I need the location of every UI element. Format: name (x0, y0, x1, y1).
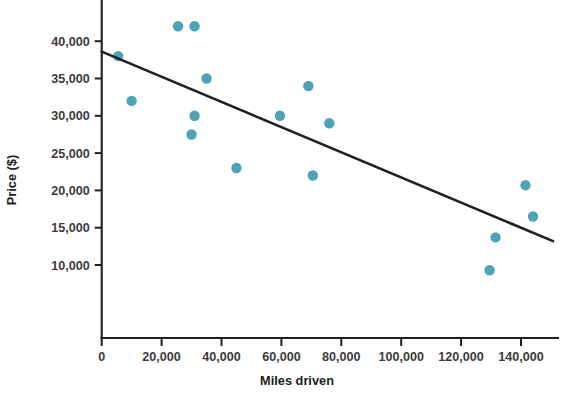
y-axis-tick-label: 30,000 (51, 109, 90, 123)
x-axis-tick-label: 120,000 (438, 350, 484, 364)
x-axis: 020,00040,00060,00080,000100,000120,0001… (98, 338, 558, 364)
data-point (186, 129, 196, 139)
data-point (201, 73, 211, 83)
x-axis-tick-label: 140,000 (498, 350, 544, 364)
data-point (189, 111, 199, 121)
data-point (308, 170, 318, 180)
data-point (303, 81, 313, 91)
y-axis-tick-label: 20,000 (51, 184, 90, 198)
y-axis-tick-label: 40,000 (51, 35, 90, 49)
y-axis-tick-label: 10,000 (51, 259, 90, 273)
y-axis: 10,00015,00020,00025,00030,00035,00040,0… (51, 0, 102, 338)
scatter-plot-figure: 10,00015,00020,00025,00030,00035,00040,0… (0, 0, 563, 399)
x-axis-tick-label: 40,000 (202, 350, 241, 364)
x-axis-title: Miles driven (260, 373, 334, 388)
y-axis-tick-label: 25,000 (51, 147, 90, 161)
data-points-layer (113, 21, 538, 275)
data-point (231, 163, 241, 173)
x-axis-tick-label: 60,000 (262, 350, 301, 364)
x-axis-tick-label: 80,000 (322, 350, 361, 364)
x-axis-tick-label: 20,000 (142, 350, 181, 364)
trendline (102, 52, 553, 241)
data-point (275, 111, 285, 121)
data-point (126, 96, 136, 106)
data-point (528, 211, 538, 221)
data-point (484, 265, 494, 275)
data-point (520, 180, 530, 190)
trendline-layer (102, 52, 553, 241)
plot-canvas: 10,00015,00020,00025,00030,00035,00040,0… (0, 0, 563, 399)
data-point (173, 21, 183, 31)
y-axis-tick-label: 35,000 (51, 72, 90, 86)
data-point (324, 118, 334, 128)
data-point (490, 232, 500, 242)
y-axis-title: Price ($) (4, 155, 19, 206)
x-axis-tick-label: 0 (98, 350, 105, 364)
data-point (189, 21, 199, 31)
y-axis-tick-label: 15,000 (51, 221, 90, 235)
x-axis-tick-label: 100,000 (378, 350, 424, 364)
